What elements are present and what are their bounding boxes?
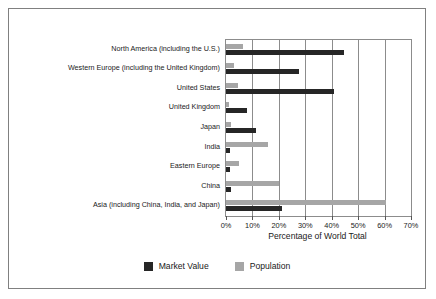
x-axis-tick: [226, 216, 227, 220]
category-label: Eastern Europe: [15, 162, 220, 169]
legend-item: Market Value: [144, 261, 209, 271]
bar-population: [226, 83, 238, 88]
legend-label: Market Value: [159, 261, 209, 271]
bar-market-value: [226, 128, 256, 133]
x-axis-tick-label: 50%: [351, 221, 366, 230]
category-label: Western Europe (including the United Kin…: [15, 64, 220, 71]
x-axis-tick-label: 30%: [298, 221, 313, 230]
x-axis-tick-label: 40%: [324, 221, 339, 230]
x-axis-tick: [252, 216, 253, 220]
bar-group: [226, 99, 411, 119]
bar-market-value: [226, 167, 230, 172]
x-axis-tick: [385, 216, 386, 220]
x-axis-tick-label: 10%: [245, 221, 260, 230]
x-axis-tick: [305, 216, 306, 220]
bar-population: [226, 102, 229, 107]
category-label: United States: [15, 84, 220, 91]
x-axis-tick-label: 0%: [221, 221, 232, 230]
legend-swatch-icon: [235, 262, 244, 271]
legend-swatch-icon: [144, 262, 153, 271]
x-axis-title: Percentage of World Total: [225, 231, 410, 241]
bar-group: [226, 79, 411, 99]
bar-market-value: [226, 50, 344, 55]
bar-group: [226, 196, 411, 216]
category-label: Japan: [15, 123, 220, 130]
bar-group: [226, 60, 411, 80]
x-axis-tick: [332, 216, 333, 220]
legend-label: Population: [250, 261, 291, 271]
chart-figure: North America (including the U.S.)Wester…: [8, 8, 426, 289]
bar-group: [226, 177, 411, 197]
bar-group: [226, 118, 411, 138]
category-label: India: [15, 143, 220, 150]
category-label: United Kingdom: [15, 103, 220, 110]
x-axis-tick-label: 70%: [404, 221, 419, 230]
x-axis-tick-label: 20%: [271, 221, 286, 230]
bar-market-value: [226, 148, 230, 153]
x-axis-tick: [411, 216, 412, 220]
bar-market-value: [226, 187, 231, 192]
category-label: Asia (including China, India, and Japan): [15, 201, 220, 208]
bar-market-value: [226, 89, 334, 94]
bar-population: [226, 122, 231, 127]
bar-market-value: [226, 108, 247, 113]
x-axis-tick: [279, 216, 280, 220]
plot-area: 0%10%20%30%40%50%60%70%: [225, 39, 412, 217]
bar-population: [226, 200, 386, 205]
bar-group: [226, 138, 411, 158]
bar-population: [226, 161, 239, 166]
legend-item: Population: [235, 261, 291, 271]
category-label: North America (including the U.S.): [15, 45, 220, 52]
bar-population: [226, 142, 268, 147]
chart-legend: Market ValuePopulation: [9, 261, 425, 271]
bar-market-value: [226, 69, 299, 74]
category-axis-labels: North America (including the U.S.)Wester…: [15, 39, 220, 215]
bar-group: [226, 40, 411, 60]
plot-wrapper: North America (including the U.S.)Wester…: [9, 9, 425, 288]
bar-population: [226, 44, 243, 49]
bar-population: [226, 181, 279, 186]
bar-market-value: [226, 206, 282, 211]
x-axis-tick-label: 60%: [377, 221, 392, 230]
bar-population: [226, 63, 234, 68]
category-label: China: [15, 182, 220, 189]
x-axis-tick: [358, 216, 359, 220]
bar-group: [226, 157, 411, 177]
